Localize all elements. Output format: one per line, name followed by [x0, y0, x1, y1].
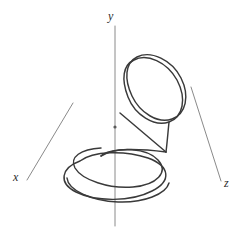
- conical-helix-figure: y x z: [0, 0, 247, 234]
- z-axis-line: [191, 87, 221, 181]
- helix-descending-strand: [166, 122, 169, 152]
- origin-point: [113, 125, 116, 128]
- helix-middle-coil: [73, 148, 162, 187]
- x-axis-line: [27, 103, 73, 180]
- x-axis-label: x: [13, 171, 18, 183]
- z-axis-label: z: [224, 177, 229, 189]
- figure-canvas: [0, 0, 247, 234]
- helix-apex-upper-edge: [120, 113, 166, 152]
- conical-helix-curve: [64, 55, 186, 202]
- y-axis-label: y: [108, 10, 113, 22]
- axis-group: [27, 26, 221, 226]
